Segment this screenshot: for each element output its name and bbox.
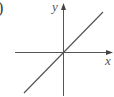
y-axis-arrow-icon — [61, 3, 66, 10]
plot-area — [0, 0, 114, 97]
x-axis-arrow-icon — [106, 50, 113, 55]
